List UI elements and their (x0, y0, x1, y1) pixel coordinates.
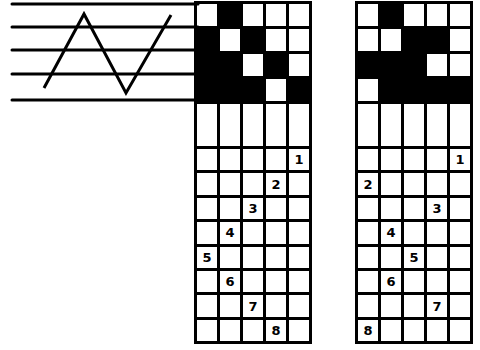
tieup-cell-empty (196, 3, 219, 28)
threading-row: 6 (196, 269, 311, 293)
threading-row: 4 (196, 221, 311, 245)
threading-cell-empty (426, 221, 449, 245)
tieup-cell-empty (426, 3, 449, 28)
threading-cell-empty (449, 245, 472, 269)
threading-cell-empty (288, 172, 311, 196)
threading-cell-empty (449, 196, 472, 220)
tieup-cell-empty (426, 53, 449, 78)
threading-number: 3 (426, 196, 449, 220)
threading-row: 2 (196, 172, 311, 196)
threading-cell-empty (219, 294, 242, 318)
tieup-cell-filled (357, 53, 380, 78)
threading-cell-empty (242, 148, 265, 172)
threading-cell-empty (380, 196, 403, 220)
tieup-cell-filled (426, 28, 449, 53)
spacer-cell (265, 103, 288, 148)
threading-cell-empty (196, 318, 219, 342)
threading-row: 6 (357, 269, 472, 293)
spacer-cell (242, 103, 265, 148)
threading-number: 7 (242, 294, 265, 318)
spacer-row (357, 103, 472, 148)
threading-cell-empty (357, 196, 380, 220)
threading-cell-empty (196, 196, 219, 220)
tieup-cell-empty (265, 78, 288, 103)
tieup-cell-filled (242, 28, 265, 53)
tieup-cell-empty (449, 3, 472, 28)
threading-cell-empty (380, 148, 403, 172)
tieup-cell-empty (219, 28, 242, 53)
threading-cell-empty (219, 172, 242, 196)
threading-cell-empty (449, 269, 472, 293)
tieup-cell-empty (357, 78, 380, 103)
threading-cell-empty (380, 294, 403, 318)
threading-cell-empty (380, 172, 403, 196)
tieup-row (357, 3, 472, 28)
threading-cell-empty (196, 221, 219, 245)
tieup-cell-filled (403, 53, 426, 78)
threading-cell-empty (449, 221, 472, 245)
tieup-row (196, 28, 311, 53)
tieup-cell-empty (265, 28, 288, 53)
threading-cell-empty (403, 269, 426, 293)
spacer-row (196, 103, 311, 148)
threading-cell-empty (403, 294, 426, 318)
threading-number: 3 (242, 196, 265, 220)
threading-number: 6 (380, 269, 403, 293)
tieup-cell-empty (242, 53, 265, 78)
threading-cell-empty (380, 318, 403, 342)
threading-cell-empty (265, 245, 288, 269)
threading-row: 5 (357, 245, 472, 269)
threading-cell-empty (265, 221, 288, 245)
threading-cell-empty (426, 269, 449, 293)
threading-cell-empty (357, 294, 380, 318)
threading-number: 7 (426, 294, 449, 318)
spacer-cell (403, 103, 426, 148)
threading-cell-empty (242, 172, 265, 196)
threading-cell-empty (196, 269, 219, 293)
tieup-cell-filled (426, 78, 449, 103)
threading-cell-empty (219, 196, 242, 220)
tieup-cell-empty (449, 53, 472, 78)
threading-number: 1 (449, 148, 472, 172)
spacer-cell (380, 103, 403, 148)
threading-number: 8 (265, 318, 288, 342)
tieup-row (357, 28, 472, 53)
spacer-cell (357, 103, 380, 148)
threading-cell-empty (426, 318, 449, 342)
tieup-cell-filled (380, 3, 403, 28)
threading-number: 4 (219, 221, 242, 245)
tieup-cell-filled (288, 78, 311, 103)
tieup-cell-filled (196, 53, 219, 78)
spacer-cell (219, 103, 242, 148)
threading-number: 2 (265, 172, 288, 196)
threading-row: 8 (357, 318, 472, 342)
tieup-cell-filled (403, 28, 426, 53)
threading-row: 3 (357, 196, 472, 220)
threading-cell-empty (219, 245, 242, 269)
threading-cell-empty (357, 148, 380, 172)
threading-number: 4 (380, 221, 403, 245)
tieup-cell-empty (403, 3, 426, 28)
tieup-row (196, 3, 311, 28)
threading-row: 7 (196, 294, 311, 318)
threading-cell-empty (380, 245, 403, 269)
threading-cell-empty (196, 148, 219, 172)
right-draft-grid: 12345678 (355, 1, 473, 344)
tieup-cell-empty (242, 3, 265, 28)
threading-cell-empty (426, 172, 449, 196)
tieup-cell-empty (288, 53, 311, 78)
threading-number: 1 (288, 148, 311, 172)
threading-cell-empty (357, 269, 380, 293)
threading-cell-empty (403, 196, 426, 220)
tieup-row (196, 78, 311, 103)
tieup-cell-filled (403, 78, 426, 103)
threading-row: 3 (196, 196, 311, 220)
tieup-cell-empty (449, 28, 472, 53)
tieup-cell-empty (380, 28, 403, 53)
treadling-staff (0, 0, 200, 105)
threading-cell-empty (403, 221, 426, 245)
tieup-cell-empty (357, 28, 380, 53)
tieup-cell-filled (265, 53, 288, 78)
threading-row: 1 (196, 148, 311, 172)
threading-cell-empty (449, 294, 472, 318)
